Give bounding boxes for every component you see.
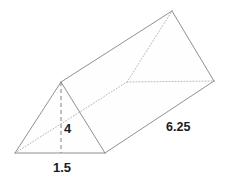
base-label: 1.5	[53, 160, 71, 175]
length-label: 6.25	[166, 120, 190, 134]
prism-drawing: 4 1.5 6.25	[0, 0, 227, 176]
height-label: 4	[64, 121, 72, 136]
triangular-prism-figure: 4 1.5 6.25	[0, 0, 227, 176]
